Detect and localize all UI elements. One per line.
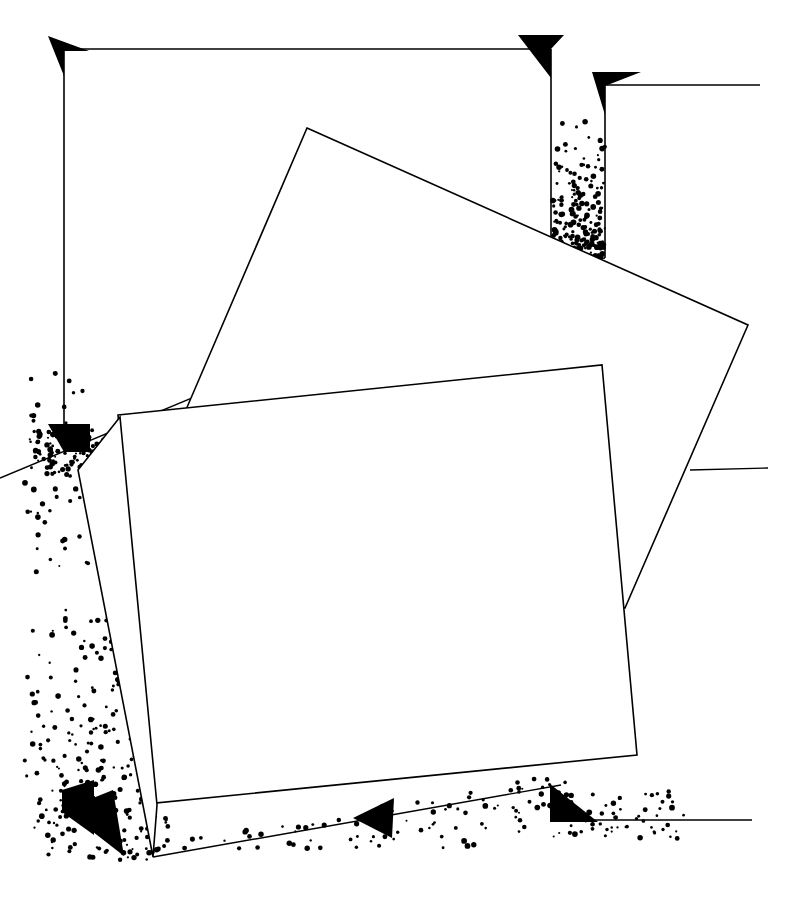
stipple-dot: [579, 238, 583, 242]
stipple-dot: [237, 846, 241, 850]
stipple-dot: [377, 844, 381, 848]
stipple-dot: [85, 561, 88, 564]
stipple-dot: [49, 676, 53, 680]
stipple-dot: [573, 189, 576, 192]
stipple-dot: [69, 474, 71, 476]
stipple-dot: [111, 688, 115, 692]
stipple-dot: [37, 801, 41, 805]
stipple-dot: [619, 808, 622, 811]
stipple-dot: [99, 766, 104, 771]
stipple-dot: [116, 740, 120, 744]
stipple-dot: [76, 459, 79, 462]
stipple-dot: [666, 793, 671, 798]
stipple-dot: [35, 532, 40, 537]
stipple-dot: [564, 150, 567, 153]
stipple-dot: [64, 625, 68, 629]
stipple-dot: [588, 183, 593, 188]
stipple-dot: [68, 499, 72, 503]
stipple-dot: [30, 511, 32, 513]
stipple-dot: [675, 830, 677, 832]
stipple-dot: [532, 777, 537, 782]
stipple-dot: [25, 509, 30, 514]
stipple-dot: [127, 808, 132, 813]
stipple-dot: [65, 464, 67, 466]
stipple-dot: [36, 547, 39, 550]
stipple-dot: [76, 756, 82, 762]
stipple-dot: [71, 630, 76, 635]
stipple-dot: [36, 690, 40, 694]
stipple-dot: [281, 825, 284, 828]
stipple-dot: [60, 539, 65, 544]
stipple-dot: [372, 835, 375, 838]
stipple-dot: [89, 643, 95, 649]
stipple-dot: [51, 837, 56, 842]
stipple-dot: [51, 472, 55, 476]
stipple-dot: [465, 843, 471, 849]
stipple-dot: [559, 203, 563, 207]
stipple-dot: [58, 815, 62, 819]
stipple-dot: [594, 166, 597, 169]
stipple-dot: [128, 816, 132, 820]
stipple-dot: [576, 188, 578, 190]
stipple-dot: [47, 447, 53, 453]
stipple-dot: [163, 845, 166, 848]
stipple-dot: [55, 824, 58, 827]
stipple-dot: [296, 824, 301, 829]
stipple-dot: [552, 204, 555, 207]
stipple-dot: [561, 166, 563, 168]
stipple-dot: [49, 632, 55, 638]
stipple-dot: [258, 832, 263, 837]
stipple-dot: [115, 709, 119, 713]
stipple-dot: [559, 213, 563, 217]
stipple-dot: [33, 430, 36, 433]
stipple-dot: [49, 662, 51, 664]
stipple-dot: [665, 823, 670, 828]
stipple-dot: [75, 452, 77, 454]
stipple-dot: [656, 792, 660, 796]
stipple-dot: [644, 793, 647, 796]
stipple-dot: [595, 191, 601, 197]
stipple-dot: [565, 168, 569, 172]
stipple-dot: [30, 741, 36, 747]
stipple-dot: [36, 429, 41, 434]
stipple-dot: [163, 816, 168, 821]
stipple-dot: [597, 216, 602, 221]
stipple-dot: [51, 444, 54, 447]
stipple-dot: [98, 656, 103, 661]
stipple-dot: [575, 190, 580, 195]
stipple-dot: [589, 221, 592, 224]
stipple-dot: [37, 512, 39, 514]
stipple-dot: [33, 827, 35, 829]
stipple-dot: [53, 822, 55, 824]
stipple-dot: [572, 171, 577, 176]
stipple-dot: [456, 807, 459, 810]
stipple-dot: [493, 807, 496, 810]
stipple-dot: [511, 806, 514, 809]
stipple-dot: [431, 809, 436, 814]
stipple-dot: [591, 173, 597, 179]
stipple-dot: [611, 801, 616, 806]
stipple-dot: [92, 728, 95, 731]
stipple-dot: [653, 831, 656, 834]
stipple-dot: [568, 171, 572, 175]
stipple-dot: [31, 700, 36, 705]
stipple-dot: [103, 724, 108, 729]
stipple-dot: [23, 758, 27, 762]
stipple-dot: [51, 459, 55, 463]
stipple-dot: [139, 826, 144, 831]
stipple-dot: [599, 167, 604, 172]
stipple-dot: [560, 196, 564, 200]
stipple-dot: [589, 228, 592, 231]
stipple-dot: [337, 818, 342, 823]
stipple-dot: [471, 842, 476, 847]
stipple-dot: [71, 828, 76, 833]
stipple-dot: [47, 458, 52, 463]
stipple-dot: [658, 807, 661, 810]
stipple-dot: [136, 789, 140, 793]
stipple-dot: [669, 836, 672, 839]
stipple-dot: [587, 208, 590, 211]
stipple-dot: [112, 727, 116, 731]
stipple-dot: [516, 786, 521, 791]
stipple-dot: [587, 136, 590, 139]
stipple-dot: [122, 828, 126, 832]
